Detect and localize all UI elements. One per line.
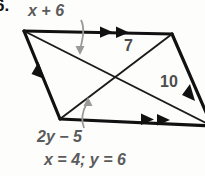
- parallelogram-figure: 6.: [0, 0, 205, 176]
- arrowhead-icon: [84, 97, 93, 106]
- label-right-segment: 10: [160, 74, 178, 90]
- right-side-tickmark: [182, 84, 195, 101]
- arrowhead-icon: [76, 46, 85, 55]
- arrowhead-icon: [182, 84, 195, 101]
- arrowhead-icon: [100, 27, 113, 38]
- curved-pointer-line: [80, 20, 83, 50]
- label-bottom-side: 2y − 5: [37, 129, 82, 145]
- label-top-side: x + 6: [28, 3, 64, 19]
- top-side: [24, 31, 172, 34]
- curved-pointer-line: [82, 103, 87, 128]
- pointer-arrow-top: [76, 20, 85, 55]
- label-upper-right-segment: 7: [124, 38, 133, 54]
- arrowhead-icon: [32, 62, 45, 79]
- label-answer: x = 4; y = 6: [44, 152, 126, 168]
- left-side-tickmark: [32, 62, 45, 79]
